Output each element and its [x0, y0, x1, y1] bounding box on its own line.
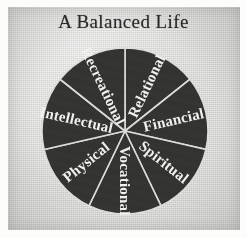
page-root: A Balanced Life RelationalFinancialSpiri… [0, 0, 247, 238]
pie-chart: RelationalFinancialSpiritualVocationalPh… [42, 48, 208, 214]
balanced-life-wheel: RelationalFinancialSpiritualVocationalPh… [42, 48, 208, 214]
pie-slice-label-vocational: Vocational [117, 146, 133, 216]
page-title: A Balanced Life [0, 11, 247, 33]
